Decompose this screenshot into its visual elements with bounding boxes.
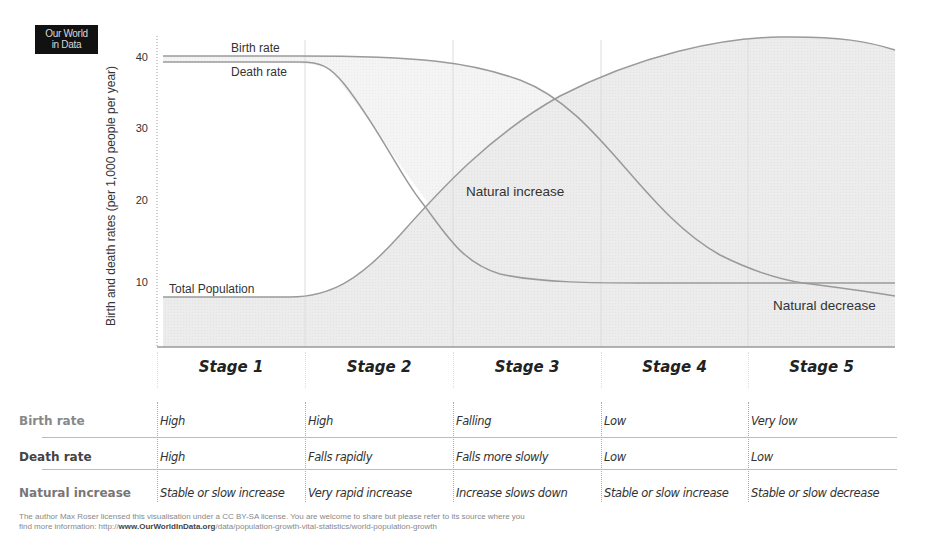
table-cell: Increase slows down — [456, 486, 567, 500]
table-column-divider — [453, 402, 454, 502]
table-cell: Low — [604, 414, 626, 428]
table-cell: Falling — [456, 414, 491, 428]
table-column-divider — [601, 402, 602, 502]
stage-3-header: Stage 3 — [453, 358, 601, 386]
header-divider — [305, 352, 306, 388]
footer-line-2: find more information: http://www.OurWor… — [19, 522, 899, 532]
header-divider — [453, 352, 454, 388]
natural-increase-annotation: Natural increase — [466, 184, 564, 199]
footer-line-1: The author Max Roser licensed this visua… — [19, 512, 899, 522]
footer-url-suffix: /data/population-growth-vital-statistics… — [216, 522, 437, 531]
table-column-divider — [157, 402, 158, 502]
header-divider — [157, 352, 158, 388]
table-cell: High — [160, 414, 185, 428]
table-cell: Very low — [751, 414, 797, 428]
table-cell: Stable or slow decrease — [751, 486, 879, 500]
birth-rate-annotation: Birth rate — [231, 41, 280, 55]
stage-1-header: Stage 1 — [157, 358, 305, 386]
header-divider — [748, 352, 749, 388]
table-column-divider — [305, 402, 306, 502]
stage-4-header: Stage 4 — [601, 358, 748, 386]
footer-url-prefix: find more information: http:// — [19, 522, 119, 531]
table-cell: Stable or slow increase — [604, 486, 728, 500]
table-cell: High — [160, 450, 185, 464]
license-footer: The author Max Roser licensed this visua… — [19, 512, 899, 532]
table-cell: High — [308, 414, 333, 428]
table-cell: Falls more slowly — [456, 450, 548, 464]
table-column-divider — [748, 402, 749, 502]
stage-5-header: Stage 5 — [748, 358, 895, 386]
row-label-natural-increase: Natural increase — [19, 486, 131, 500]
header-divider — [601, 352, 602, 388]
stage-2-header: Stage 2 — [305, 358, 453, 386]
total-population-annotation: Total Population — [169, 282, 254, 296]
table-row-divider — [42, 437, 897, 438]
table-cell: Stable or slow increase — [160, 486, 284, 500]
table-cell: Very rapid increase — [308, 486, 412, 500]
table-cell: Low — [604, 450, 626, 464]
row-label-birth-rate: Birth rate — [19, 414, 85, 428]
natural-decrease-annotation: Natural decrease — [773, 298, 876, 313]
table-cell: Falls rapidly — [308, 450, 372, 464]
table-row-divider — [42, 469, 897, 470]
death-rate-annotation: Death rate — [231, 65, 287, 79]
row-label-death-rate: Death rate — [19, 450, 92, 464]
source-link[interactable]: www.OurWorldInData.org — [119, 522, 216, 531]
table-cell: Low — [751, 450, 773, 464]
